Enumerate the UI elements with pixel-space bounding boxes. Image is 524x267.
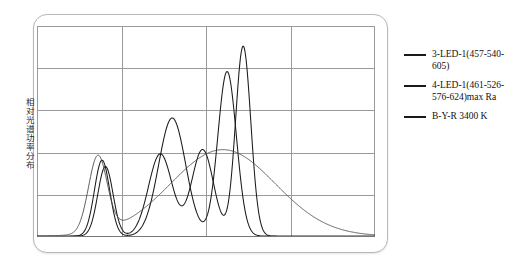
- plot-area: [37, 26, 375, 237]
- legend-item-label: 3-LED-1(457-540-605): [432, 48, 520, 72]
- spectral-plot-svg: [37, 26, 375, 237]
- legend-line-swatch: [404, 54, 426, 56]
- legend-item[interactable]: B-Y-R 3400 K: [404, 110, 522, 122]
- figure-canvas: 相对光谱功率分布 3-LED-1(457-540-605) 4-LED-1(46…: [0, 0, 524, 267]
- legend-item-label: 4-LED-1(461-526-576-624)max Ra: [432, 79, 520, 103]
- legend-line-swatch: [404, 116, 426, 118]
- legend: 3-LED-1(457-540-605) 4-LED-1(461-526-576…: [404, 48, 522, 129]
- legend-item[interactable]: 3-LED-1(457-540-605): [404, 48, 522, 72]
- legend-item[interactable]: 4-LED-1(461-526-576-624)max Ra: [404, 79, 522, 103]
- legend-line-swatch: [404, 85, 426, 87]
- y-axis-label: 相对光谱功率分布: [18, 78, 34, 190]
- legend-item-label: B-Y-R 3400 K: [432, 110, 487, 122]
